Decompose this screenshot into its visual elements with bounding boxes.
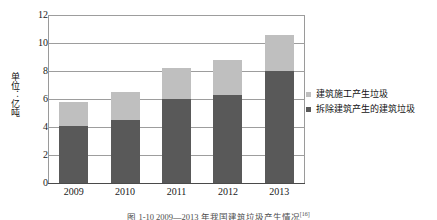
y-tick-label-6: 6 [26,94,48,104]
y-axis-title: 单位：亿吨 [4,72,20,117]
caption-reference: [16] [300,211,310,217]
chart-legend: 建筑施工产生垃圾拆除建筑产生的建筑垃圾 [306,87,437,117]
bar-segment-2010-0 [111,120,140,183]
x-tick-label-2012: 2012 [202,186,253,198]
bar-segment-2011-1 [162,68,191,99]
y-tick-label-10: 10 [26,38,48,48]
caption-text: 图 1-10 2009—2013 年我国建筑垃圾产生情况 [127,212,299,220]
bar-segment-2013-1 [265,35,294,71]
x-tick-label-2013: 2013 [254,186,305,198]
legend-label-1: 拆除建筑产生的建筑垃圾 [316,104,415,114]
figure-caption: 图 1-10 2009—2013 年我国建筑垃圾产生情况[16] [0,209,437,220]
bar-segment-2010-1 [111,92,140,120]
x-tick-label-2009: 2009 [48,186,99,198]
chart-figure: 单位：亿吨 024681012 20092010201120122013 建筑施… [0,0,437,220]
bar-2013 [265,15,294,183]
x-axis-labels: 20092010201120122013 [48,186,305,202]
bar-2012 [213,15,242,183]
bar-segment-2012-0 [213,95,242,183]
bar-2010 [111,15,140,183]
y-tick-label-8: 8 [26,66,48,76]
bar-2009 [59,15,88,183]
y-tick-label-4: 4 [26,122,48,132]
bar-segment-2012-1 [213,60,242,95]
y-axis-ticks: 024681012 [20,15,48,183]
x-tick-label-2011: 2011 [151,186,202,198]
y-tick-label-2: 2 [26,150,48,160]
legend-item-1[interactable]: 拆除建筑产生的建筑垃圾 [306,102,437,116]
bar-segment-2009-0 [59,126,88,183]
legend-item-0[interactable]: 建筑施工产生垃圾 [306,87,437,101]
y-tick-label-12: 12 [26,10,48,20]
bar-segment-2013-0 [265,71,294,183]
bar-2011 [162,15,191,183]
gridline-0 [48,183,305,184]
legend-label-0: 建筑施工产生垃圾 [316,89,388,99]
legend-swatch-icon-1 [306,107,311,112]
x-tick-label-2010: 2010 [99,186,150,198]
plot-area [48,15,305,183]
bar-segment-2009-1 [59,102,88,126]
legend-swatch-icon-0 [306,92,311,97]
bar-segment-2011-0 [162,99,191,183]
y-tick-label-0: 0 [26,178,48,188]
